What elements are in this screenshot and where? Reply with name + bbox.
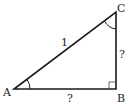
- angle-arc-c: [105, 21, 117, 29]
- angle-arc-a: [27, 80, 30, 89]
- leg-ab-label: ?: [67, 92, 73, 105]
- triangle-abc: [14, 12, 116, 89]
- vertex-label-a: A: [2, 86, 12, 99]
- triangle-diagram: A B C 1 ? ?: [0, 0, 134, 107]
- hypotenuse-label: 1: [61, 36, 68, 49]
- vertex-label-b: B: [117, 92, 125, 105]
- right-angle-marker: [109, 82, 116, 89]
- leg-bc-label: ?: [119, 48, 125, 61]
- vertex-label-c: C: [117, 2, 125, 15]
